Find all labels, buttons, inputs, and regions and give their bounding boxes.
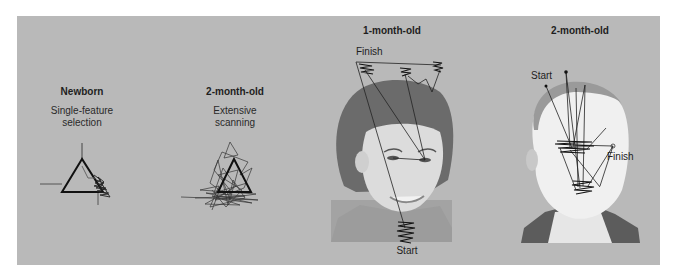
woman-photo	[331, 80, 453, 242]
caption-line: Extensive	[185, 105, 285, 117]
figure-artwork	[0, 0, 677, 277]
finish-label: Finish	[356, 46, 383, 58]
two-month-triangle-scan	[181, 142, 258, 210]
caption-line: selection	[32, 117, 132, 129]
panel-title-newborn: Newborn	[42, 86, 122, 98]
start-label: Start	[387, 245, 427, 257]
fixation-point	[564, 70, 568, 74]
finish-label: Finish	[607, 151, 634, 163]
triangle-stimulus	[62, 159, 103, 192]
fixation-cluster	[94, 175, 110, 197]
newborn-scan	[40, 143, 110, 205]
start-point	[545, 85, 548, 88]
panel-title-two-month-face: 2-month-old	[540, 25, 620, 37]
panel-title-two-month-triangle: 2-month-old	[195, 86, 275, 98]
panel-title-one-month-face: 1-month-old	[352, 25, 432, 37]
caption-line: Single-feature	[32, 105, 132, 117]
caption-line: scanning	[185, 117, 285, 129]
start-label: Start	[531, 70, 552, 82]
